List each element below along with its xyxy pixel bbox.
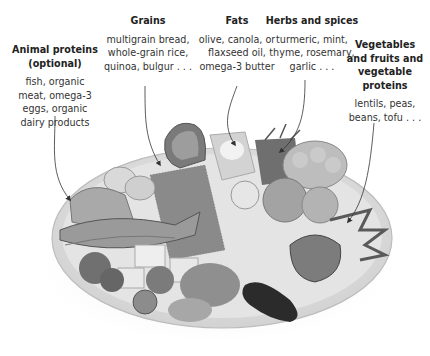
tomato [133,290,157,314]
orange-fruit [263,178,307,222]
garlic [231,181,259,209]
tofu [135,245,165,267]
label-grains: Grains multigrain bread, whole-grain ric… [98,14,198,73]
arrow-grains [145,86,160,165]
label-animal-proteins: Animal proteins(optional) fish, organic … [0,43,110,129]
label-vegetables: Vegetables and fruits and vegetable prot… [340,38,430,124]
